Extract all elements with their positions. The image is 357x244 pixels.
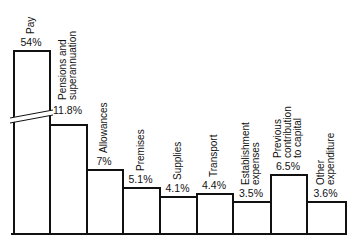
category-label: Allowances (99, 102, 109, 153)
value-label: 4.1% (159, 182, 196, 194)
category-label: Supplies (173, 142, 183, 180)
value-label: 3.5% (232, 187, 270, 199)
bar-other-expenditure (306, 201, 347, 234)
bar-pay (13, 50, 51, 234)
category-label: Premises (136, 129, 146, 171)
category-label: Transport (209, 135, 219, 177)
value-label: 4.4% (196, 179, 232, 191)
value-label: 3.6% (306, 187, 345, 199)
category-label: Other expenditure (316, 133, 336, 185)
category-label: Pensions and superannuation (58, 31, 78, 100)
value-label: 54% (13, 36, 49, 48)
category-label: Establishment expenses (241, 122, 261, 185)
value-label: 7% (86, 155, 122, 167)
value-label: 6.5% (270, 160, 306, 172)
bar-allowances (86, 169, 124, 234)
bar-establishment-expenses (232, 201, 272, 234)
bar-supplies (159, 196, 198, 234)
category-label: Previous contribution to capital (273, 106, 303, 158)
bar-premises (122, 187, 161, 234)
axis-break-icon (8, 108, 68, 128)
baseline (11, 233, 347, 235)
category-label: Pay (26, 17, 36, 34)
bar-transport (196, 193, 234, 234)
value-label: 5.1% (122, 173, 159, 185)
expenditure-bar-chart: 54%Pay11.8%Pensions and superannuation7%… (0, 0, 357, 244)
bar-previous-contribution-to-capital (270, 174, 308, 234)
bar-pensions-and-superannuation (49, 124, 88, 234)
